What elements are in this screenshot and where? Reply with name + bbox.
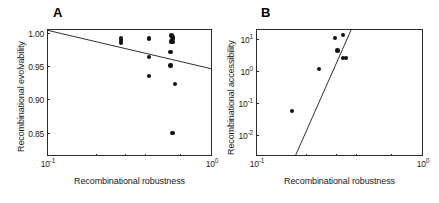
- panel-a-xtick-mark-1: [47, 153, 48, 156]
- panel-a-x-axis-label: Recombinational robustness: [47, 176, 212, 186]
- panel-b-ytick-minor-top: [256, 29, 258, 30]
- panel-b-x-axis-label: Recombinational robustness: [256, 176, 423, 186]
- panel-a-xtick-minor-9: [180, 154, 181, 156]
- panel-b-ytick-4: 10-2: [228, 131, 253, 141]
- panel-a-ytick-1: 1.00: [22, 29, 44, 39]
- panel-b-ytick-mark-3: [256, 103, 259, 104]
- panel-b-ytick-mark-4: [256, 135, 259, 136]
- panel-b-xtick-minor-7: [356, 154, 357, 156]
- panel-a-data-point: [168, 50, 172, 54]
- panel-a-xtick-mark-2: [211, 153, 212, 156]
- panel-a-plot-area: [47, 29, 212, 156]
- panel-a-label: A: [53, 5, 62, 20]
- panel-a-xtick-minor-5: [125, 154, 126, 156]
- panel-a-xtick-minor-7: [145, 154, 146, 156]
- panel-a-ytick-mark-3: [47, 99, 50, 100]
- panel-b-ytick-2: 100: [231, 67, 253, 77]
- panel-b-ytick-1: 101: [231, 35, 253, 45]
- panel-b-xtick-minor-9: [391, 154, 392, 156]
- panel-b-xtick-mark-1: [256, 153, 257, 156]
- panel-a-xtick-label-1: 10-1: [36, 159, 60, 169]
- panel-b-ytick-mark-2: [256, 71, 259, 72]
- panel-a: A Recombinational evolvability 1.00 0.95…: [0, 0, 220, 203]
- panel-b-ytick-3: 10-1: [228, 99, 253, 109]
- panel-b-ytick-mark-1: [256, 39, 259, 40]
- panel-a-data-point: [168, 63, 172, 67]
- panel-a-data-point: [147, 55, 151, 59]
- panel-a-data-point: [170, 40, 175, 45]
- panel-a-xtick-minor-3: [96, 154, 97, 156]
- panel-b-xtick-label-1: 10-1: [245, 159, 269, 169]
- panel-b-xtick-label-2: 100: [411, 159, 435, 169]
- panel-b-label: B: [261, 5, 270, 20]
- panel-a-ytick-3: 0.90: [22, 95, 44, 105]
- panel-b-data-point: [290, 109, 295, 114]
- panel-a-ytick-4: 0.85: [22, 129, 44, 139]
- panel-a-ytick-mark-4: [47, 133, 50, 134]
- panel-a-ytick-2: 0.95: [22, 62, 44, 72]
- panel-b-xtick-minor-5: [336, 154, 337, 156]
- panel-b-xtick-mark-2: [422, 153, 423, 156]
- panel-a-ytick-mark-2: [47, 66, 50, 67]
- panel-b-data-point: [335, 48, 340, 53]
- panel-a-data-point: [119, 40, 123, 44]
- panel-b-data-point: [341, 33, 346, 38]
- panel-b-xtick-minor-3: [306, 154, 307, 156]
- figure-container: A Recombinational evolvability 1.00 0.95…: [0, 0, 439, 203]
- panel-b: B Recombinational accessibility 101 100 …: [219, 0, 439, 203]
- panel-a-data-point: [147, 36, 151, 40]
- panel-a-ytick-mark-1: [47, 33, 50, 34]
